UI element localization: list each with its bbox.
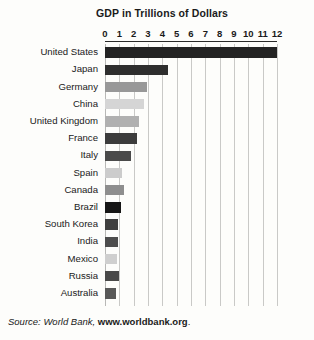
bar-row: Canada [105,182,277,199]
category-label-japan: Japan [72,63,98,74]
category-label-canada: Canada [64,184,98,195]
category-label-united-kingdom: United Kingdom [30,115,98,126]
bar-russia [105,271,119,281]
x-tick-label-2: 2 [131,28,136,39]
bar-south-korea [105,219,118,229]
bar-row: Mexico [105,250,277,267]
bar-row: United Kingdom [105,113,277,130]
bar-row: Australia [105,285,277,302]
x-tick-label-8: 8 [217,28,222,39]
category-label-italy: Italy [80,149,98,160]
bar-row: Brazil [105,199,277,216]
category-label-spain: Spain [73,167,98,178]
x-tick-label-1: 1 [117,28,122,39]
bar-canada [105,185,124,195]
bar-japan [105,65,168,75]
bar-italy [105,151,131,161]
x-axis-baseline [105,41,277,42]
plot-area: United StatesJapanGermanyChinaUnited Kin… [105,44,277,306]
category-label-brazil: Brazil [74,201,98,212]
category-label-south-korea: South Korea [45,218,98,229]
gdp-bar-chart-figure: GDP in Trillions of Dollars 012345678910… [0,0,314,340]
bar-spain [105,168,122,178]
bar-united-states [105,47,277,57]
x-tick-label-5: 5 [174,28,179,39]
source-note-suffix: . [188,316,191,327]
x-tick-label-0: 0 [102,28,107,39]
bar-united-kingdom [105,116,139,126]
x-tick-label-10: 10 [243,28,254,39]
x-tick-label-7: 7 [203,28,208,39]
bar-row: Japan [105,61,277,78]
x-axis-tick-labels: 0123456789101112 [0,28,314,41]
bar-china [105,99,144,109]
category-label-australia: Australia [61,287,98,298]
bar-mexico [105,254,117,264]
x-tick-label-4: 4 [160,28,165,39]
category-label-germany: Germany [59,81,98,92]
x-tick-label-9: 9 [231,28,236,39]
category-label-mexico: Mexico [68,253,98,264]
bar-germany [105,82,147,92]
bar-india [105,237,118,247]
bar-brazil [105,202,121,212]
source-note-prefix: Source: World Bank, [8,316,98,327]
category-label-united-states: United States [40,46,98,57]
bar-row: India [105,233,277,250]
bar-france [105,133,137,143]
category-label-russia: Russia [69,270,98,281]
bar-row: United States [105,44,277,61]
x-tick-label-3: 3 [145,28,150,39]
category-label-china: China [73,98,98,109]
category-label-india: India [77,235,98,246]
gridline-12 [277,44,278,306]
x-tick-label-11: 11 [258,28,268,39]
bar-row: Spain [105,164,277,181]
bar-row: Germany [105,78,277,95]
bar-row: South Korea [105,216,277,233]
category-label-france: France [68,132,98,143]
bar-row: Russia [105,268,277,285]
bar-row: China [105,96,277,113]
chart-title: GDP in Trillions of Dollars [96,7,296,19]
source-note: Source: World Bank, www.worldbank.org. [8,316,190,327]
bar-row: Italy [105,147,277,164]
bar-australia [105,288,116,298]
bar-row: France [105,130,277,147]
source-note-url[interactable]: www.worldbank.org [98,316,188,327]
x-tick-label-6: 6 [188,28,193,39]
x-tick-label-12: 12 [272,28,283,39]
